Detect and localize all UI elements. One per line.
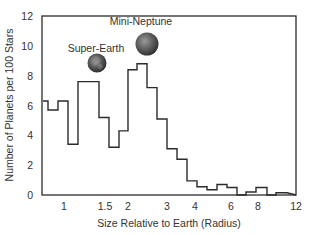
x-tick-label: 1.5 — [98, 200, 113, 212]
y-tick-label: 12 — [21, 10, 33, 22]
x-tick-label: 3 — [164, 200, 170, 212]
x-tick-label: 6 — [228, 200, 234, 212]
super-earth-label: Super-Earth — [68, 42, 125, 54]
y-tick-label: 4 — [27, 129, 33, 141]
x-tick-label: 4 — [192, 200, 198, 212]
y-tick-label: 8 — [27, 70, 33, 82]
histogram-step-line — [43, 64, 296, 195]
x-tick-label: 2 — [125, 200, 131, 212]
chart: 024681012 11.52346812 Size Relative to E… — [0, 0, 317, 235]
y-axis-title: Number of Planets per 100 Stars — [3, 29, 15, 182]
mini-neptune-globe-icon — [136, 33, 159, 56]
x-axis-title: Size Relative to Earth (Radius) — [97, 217, 241, 229]
y-tick-label: 0 — [27, 189, 33, 201]
super-earth-globe-icon — [88, 54, 107, 73]
x-tick-label: 8 — [255, 200, 261, 212]
x-axis-ticks: 11.52346812 — [61, 200, 302, 212]
y-tick-label: 10 — [21, 40, 33, 52]
y-axis-ticks: 024681012 — [21, 10, 33, 201]
x-tick-label: 1 — [61, 200, 67, 212]
y-tick-label: 2 — [27, 159, 33, 171]
x-tick-label: 12 — [290, 200, 302, 212]
y-tick-label: 6 — [27, 100, 33, 112]
mini-neptune-label: Mini-Neptune — [110, 15, 173, 27]
